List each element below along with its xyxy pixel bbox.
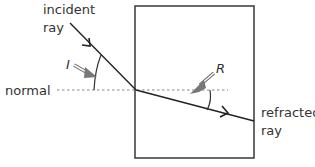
incident-ray [70,23,136,90]
label-normal: normal [5,83,51,98]
label-angle-refraction: R [216,61,225,76]
angle-arc-refraction [207,90,211,110]
angle-arc-incidence [94,55,101,90]
refracted-ray [136,90,254,121]
label-incident: incident [43,2,95,17]
label-refracted-ray: ray [261,123,282,138]
glass-block [135,6,254,158]
refracted-arrowhead-icon [220,106,228,117]
label-refracted: refracted [261,105,315,120]
label-angle-incidence: I [66,57,70,72]
label-incident-ray: ray [43,20,64,35]
pointer-arrow-incidence-icon [74,65,97,78]
